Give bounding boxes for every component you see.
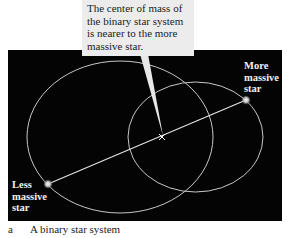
label-line: More xyxy=(244,60,279,72)
caption-letter: a xyxy=(8,223,30,235)
callout-line: The center of mass of xyxy=(87,2,194,15)
label-line: star xyxy=(244,83,279,95)
figure-caption: aA binary star system xyxy=(8,223,120,235)
less-massive-star-orbit xyxy=(27,61,213,213)
label-line: Less xyxy=(12,179,47,191)
label-line: star xyxy=(12,202,47,214)
caption-text: A binary star system xyxy=(30,223,120,235)
star-connecting-line xyxy=(48,100,246,184)
callout-pointer xyxy=(140,54,163,136)
callout-line: is nearer to the more xyxy=(87,27,194,40)
less-massive-star-label: Less massive star xyxy=(12,179,47,214)
label-line: massive xyxy=(244,72,279,84)
callout-box: The center of mass of the binary star sy… xyxy=(82,0,194,56)
callout-line: massive star. xyxy=(87,40,194,53)
more-massive-star-label: More massive star xyxy=(244,60,279,95)
label-line: massive xyxy=(12,191,47,203)
more-massive-star xyxy=(242,96,251,105)
callout-line: the binary star system xyxy=(87,15,194,28)
